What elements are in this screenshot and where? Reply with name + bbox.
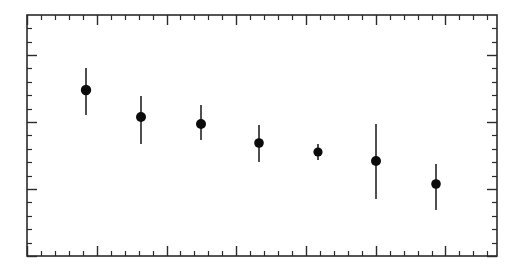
marker-3 [196, 119, 206, 129]
marker-2 [136, 112, 146, 122]
marker-6 [371, 156, 381, 166]
figure-container [0, 0, 521, 276]
marker-7 [431, 179, 441, 189]
marker-5 [313, 147, 322, 156]
marker-1 [81, 85, 91, 95]
marker-4 [254, 138, 264, 148]
scatter-plot-with-error-bars [0, 0, 521, 276]
plot-background [0, 0, 521, 276]
